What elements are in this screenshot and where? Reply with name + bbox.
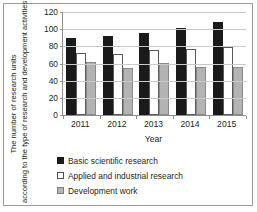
bar xyxy=(123,68,133,115)
gridline xyxy=(63,81,246,82)
chart-figure: The number of research units according t… xyxy=(0,0,257,212)
y-axis-title: The number of research units according t… xyxy=(4,4,34,204)
legend-item: Applied and industrial research xyxy=(57,168,247,183)
x-tick-label: 2015 xyxy=(212,119,242,129)
y-tick-mark xyxy=(60,98,63,99)
legend-item: Basic scientific research xyxy=(57,153,247,168)
bar xyxy=(149,50,159,115)
x-tick-label: 2013 xyxy=(138,119,168,129)
y-tick-label: 80 xyxy=(49,42,58,50)
y-tick-label: 0 xyxy=(53,111,58,119)
bar xyxy=(103,36,113,115)
legend-swatch-icon xyxy=(57,157,64,164)
gridline xyxy=(63,12,246,13)
chart-legend: Basic scientific researchApplied and ind… xyxy=(57,153,247,198)
x-axis-title: Year xyxy=(62,134,245,144)
y-tick-mark xyxy=(60,115,63,116)
y-axis-tick-labels: 020406080100120 xyxy=(36,9,60,115)
plot-area: 020406080100120 20112012201320142015 Yea… xyxy=(36,9,250,149)
y-tick-label: 120 xyxy=(44,8,58,16)
x-tick-label: 2011 xyxy=(65,119,95,129)
x-tick-label: 2012 xyxy=(102,119,132,129)
y-tick-label: 100 xyxy=(44,25,58,33)
y-tick-mark xyxy=(60,64,63,65)
bar xyxy=(159,63,169,115)
legend-swatch-icon xyxy=(57,172,64,179)
plot-canvas xyxy=(62,12,246,116)
y-tick-mark xyxy=(60,12,63,13)
gridline xyxy=(63,29,246,30)
bar xyxy=(186,49,196,115)
x-axis-tick-labels: 20112012201320142015 xyxy=(62,119,245,129)
gridline xyxy=(63,98,246,99)
bar xyxy=(213,22,223,115)
legend-swatch-icon xyxy=(57,187,64,194)
gridline xyxy=(63,64,246,65)
x-tick-label: 2014 xyxy=(175,119,205,129)
bar xyxy=(176,28,186,115)
legend-item: Development work xyxy=(57,183,247,198)
bar xyxy=(233,67,243,115)
x-tick-mark xyxy=(246,116,247,119)
y-tick-mark xyxy=(60,46,63,47)
bar xyxy=(196,67,206,115)
y-tick-label: 60 xyxy=(49,59,58,67)
legend-label: Basic scientific research xyxy=(68,156,158,166)
bar xyxy=(66,38,76,115)
legend-label: Development work xyxy=(68,186,137,196)
gridline xyxy=(63,46,246,47)
bar xyxy=(86,62,96,115)
legend-label: Applied and industrial research xyxy=(68,171,183,181)
y-axis-title-line-1: The number of research units xyxy=(8,5,19,203)
y-tick-mark xyxy=(60,81,63,82)
y-tick-mark xyxy=(60,29,63,30)
y-tick-label: 20 xyxy=(49,94,58,102)
y-tick-label: 40 xyxy=(49,76,58,84)
bar xyxy=(139,33,149,115)
bar xyxy=(76,53,86,115)
y-axis-title-line-2: according to the type of research and de… xyxy=(19,5,30,203)
